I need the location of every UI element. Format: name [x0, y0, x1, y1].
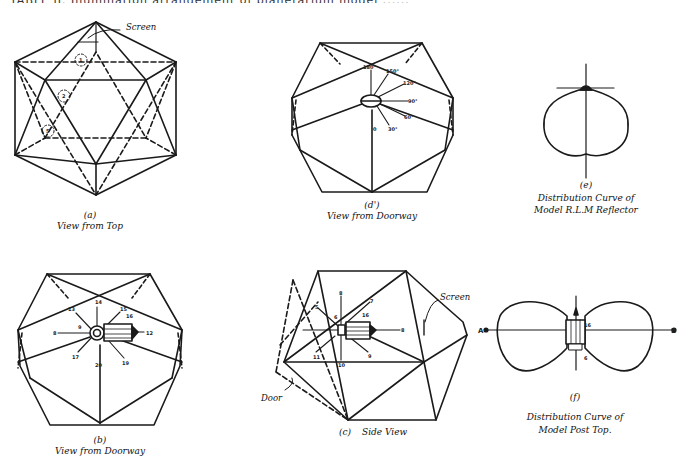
number-label: 20	[95, 362, 102, 368]
door-label: Door	[261, 393, 282, 403]
number-label: 13	[68, 306, 75, 312]
screen-label: Screen	[440, 292, 470, 302]
number-label: 16	[362, 312, 369, 318]
number-label: 8	[339, 290, 342, 296]
marker-label: 2	[62, 93, 65, 99]
panel-letter: (c)	[330, 427, 360, 438]
panel-caption-line: Model Post Top.	[505, 425, 645, 436]
panel-caption-line: Distribution Curve of	[505, 412, 645, 423]
angle-label: 90°	[408, 98, 417, 104]
panel-caption: View from Top	[30, 221, 150, 232]
number-label: 9	[78, 324, 81, 330]
number-label: 8	[401, 327, 404, 333]
number-label: 9	[368, 353, 371, 359]
panel-caption: Side View	[362, 427, 432, 438]
marker-label: 16	[584, 322, 591, 328]
angle-label: 120°	[403, 80, 416, 86]
axis-label-b: B	[671, 327, 676, 335]
marker-label: 1	[79, 57, 82, 63]
angle-label: 60°	[404, 114, 413, 120]
panel-letter: (d')	[312, 200, 432, 211]
number-label: 11	[313, 354, 320, 360]
panel-f-distribution-curve	[484, 296, 676, 371]
number-label: 16	[126, 313, 133, 319]
number-label: 17	[72, 354, 79, 360]
panel-letter: (f)	[525, 392, 625, 403]
angle-label: 150°	[386, 68, 399, 74]
angle-label: 180°	[363, 64, 376, 70]
panel-caption: View from Doorway	[40, 446, 160, 457]
panel-caption-line: Model R.L.M Reflector	[516, 205, 656, 216]
panel-caption-line: Distribution Curve of	[516, 193, 656, 204]
number-label: 8	[53, 330, 56, 336]
screen-label: Screen	[126, 22, 156, 32]
number-label: 14	[95, 299, 102, 305]
panel-letter: (b)	[40, 435, 160, 446]
number-label: 19	[122, 360, 129, 366]
marker-label: 6	[584, 355, 587, 361]
number-label: 6	[334, 314, 337, 320]
number-label: 15	[120, 306, 127, 312]
axis-label-a: A	[478, 327, 483, 335]
panel-a-icosahedron	[15, 22, 176, 195]
panel-letter: (a)	[30, 210, 150, 221]
panel-c-side-view	[276, 271, 467, 420]
panel-b-view-from-doorway	[18, 274, 182, 425]
angle-label: 0	[373, 126, 376, 132]
marker-label: 5	[46, 128, 49, 134]
panel-letter: (e)	[526, 180, 646, 191]
number-label: 10	[338, 362, 345, 368]
number-label: 12	[146, 330, 153, 336]
panel-caption: View from Doorway	[312, 211, 432, 222]
angle-label: 30°	[388, 126, 397, 132]
number-label: 7	[370, 298, 373, 304]
panel-e-distribution-curve	[544, 64, 628, 178]
number-label: 5	[315, 304, 318, 310]
